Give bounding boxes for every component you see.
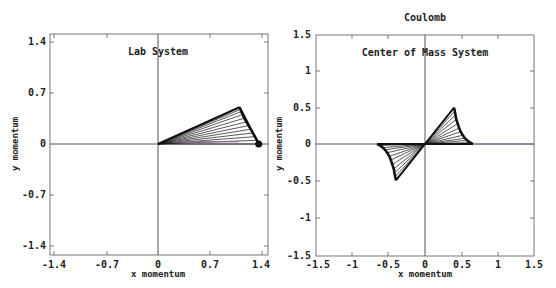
- cm-momentum-traces: [377, 108, 534, 181]
- y-axis-title: y momentum: [274, 116, 284, 171]
- x-axis-title: x momentum: [398, 269, 453, 279]
- x-tick-label: -0.5: [376, 259, 400, 270]
- lab-momentum-traces: [158, 107, 262, 147]
- figure-suptitle: Coulomb: [404, 12, 446, 23]
- y-tick-label: 0: [40, 138, 46, 149]
- y-axis-title: y momentum: [10, 116, 20, 171]
- y-tick-label: -1.5: [287, 250, 311, 261]
- x-tick-label: -1.4: [42, 259, 66, 270]
- x-tick-label: 1.5: [525, 259, 543, 270]
- x-tick-label: 1: [495, 259, 501, 270]
- cm-system-plot: -1.5 -1 -0.5 0 0.5 1 1.5 1.5 1 0.5 0 -0.…: [274, 29, 543, 279]
- lab-system-plot: -1.4 -0.7 0 0.7 1.4 1.4 0.7 0 -0.7 -1.4 …: [10, 34, 270, 279]
- y-tick-label: 0.7: [28, 87, 46, 98]
- y-tick-label: 1: [305, 65, 311, 76]
- x-tick-label: 1.4: [252, 259, 270, 270]
- x-tick-label: 0.5: [453, 259, 471, 270]
- y-tick-label: 1.4: [28, 36, 46, 47]
- x-tick-label: -1: [346, 259, 358, 270]
- y-tick-label: 1.5: [293, 29, 311, 40]
- y-tick-label: -1: [299, 212, 311, 223]
- figure: Coulomb -1.4 -0.7 0 0.7 1.4 1.4 0.7 0 -0…: [0, 0, 556, 288]
- y-tick-label: -0.5: [287, 175, 311, 186]
- y-tick-label: -1.4: [22, 240, 46, 251]
- x-tick-label: 0.7: [201, 259, 219, 270]
- x-axis-title: x momentum: [131, 269, 186, 279]
- plot-title: Lab System: [128, 46, 188, 57]
- y-tick-label: -0.7: [22, 189, 46, 200]
- y-tick-label: 0: [305, 138, 311, 149]
- plot-title: Center of Mass System: [362, 47, 488, 58]
- y-tick-label: 0.5: [293, 102, 311, 113]
- x-tick-label: -0.7: [95, 259, 119, 270]
